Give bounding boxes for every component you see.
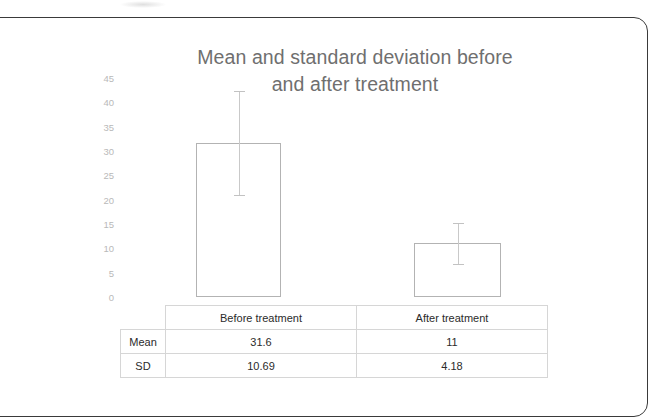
error-bar-cap-1-lower: [234, 195, 245, 196]
table-cell: 10.69: [166, 354, 357, 378]
table-row: SD10.694.18: [121, 354, 548, 378]
y-axis-tick-label: 35: [103, 121, 114, 132]
plot-area: 454035302520151050: [120, 78, 550, 297]
y-axis-tick-label: 40: [103, 97, 114, 108]
error-bar-cap-2-lower: [453, 264, 464, 265]
y-axis-tick-label: 10: [103, 243, 114, 254]
table-row: Mean31.611: [121, 330, 548, 354]
column-header-2: After treatment: [357, 306, 548, 330]
error-bar-1: [239, 91, 240, 195]
row-header-mean: Mean: [121, 330, 166, 354]
y-axis-tick-label: 0: [109, 292, 114, 303]
table-cell: 4.18: [357, 354, 548, 378]
table-corner-cell: [121, 306, 166, 330]
data-table-body: Before treatmentAfter treatmentMean31.61…: [121, 306, 548, 378]
table-header-row: Before treatmentAfter treatment: [121, 306, 548, 330]
y-axis-tick-label: 30: [103, 146, 114, 157]
column-header-1: Before treatment: [166, 306, 357, 330]
y-axis-tick-label: 20: [103, 194, 114, 205]
table-cell: 31.6: [166, 330, 357, 354]
row-header-sd: SD: [121, 354, 166, 378]
error-bar-cap-2-upper: [453, 223, 464, 224]
y-axis-tick-label: 15: [103, 219, 114, 230]
table-cell: 11: [357, 330, 548, 354]
error-bar-cap-1-upper: [234, 91, 245, 92]
y-axis-tick-label: 5: [109, 267, 114, 278]
y-axis-tick-label: 45: [103, 73, 114, 84]
y-axis-tick-label: 25: [103, 170, 114, 181]
data-table: Before treatmentAfter treatmentMean31.61…: [120, 305, 548, 378]
error-bar-2: [458, 223, 459, 264]
scan-artifact: [120, 1, 166, 8]
